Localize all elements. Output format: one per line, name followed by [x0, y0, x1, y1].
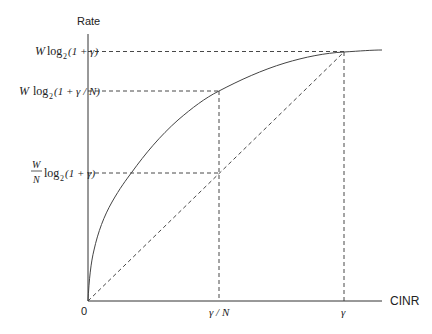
y-tick-lower: W N log 2 (1 + γ) — [31, 159, 95, 185]
origin-label: 0 — [81, 305, 87, 317]
x-axis-label: CINR — [390, 294, 420, 308]
x-tick-gamma-over-n: γ / N — [209, 306, 230, 318]
svg-text:log: log — [44, 166, 59, 180]
svg-text:(1 + γ): (1 + γ) — [68, 45, 98, 58]
capacity-curve — [88, 50, 382, 301]
svg-text:2: 2 — [63, 52, 67, 61]
x-tick-gamma: γ — [341, 306, 346, 318]
svg-text:log: log — [33, 84, 48, 98]
svg-text:W: W — [32, 159, 42, 170]
svg-text:N: N — [32, 174, 41, 185]
svg-text:2: 2 — [49, 92, 53, 101]
svg-text:log: log — [47, 44, 62, 58]
y-tick-top: W log 2 (1 + γ) — [35, 44, 98, 61]
svg-text:(1 + γ): (1 + γ) — [65, 167, 95, 180]
y-axis-label: Rate — [77, 15, 100, 27]
svg-text:(1 + γ / N): (1 + γ / N) — [54, 85, 100, 98]
linear-rate-line — [88, 52, 344, 301]
rate-vs-cinr-diagram: Rate CINR 0 γ / N γ W log 2 (1 + γ) W lo… — [0, 0, 432, 334]
svg-text:2: 2 — [60, 174, 64, 183]
svg-text:W: W — [19, 84, 30, 98]
svg-text:W: W — [35, 44, 46, 58]
